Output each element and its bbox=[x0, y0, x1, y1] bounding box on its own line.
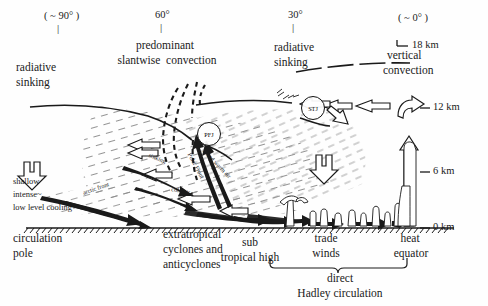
hadley-caption-line2: Hadley circulation bbox=[278, 287, 402, 300]
surface-subtropical-high-line2: tropical high bbox=[208, 251, 292, 264]
surface-extratropical-line1: extratropical bbox=[163, 228, 221, 241]
latitude-tick-60: | bbox=[160, 21, 162, 33]
surface-trade-winds-line1: trade bbox=[298, 232, 354, 245]
slantwise-convection-line1: predominant bbox=[100, 39, 230, 52]
shallow-cooling-line2: intense~ bbox=[13, 190, 42, 200]
surface-circulation-pole-line2: pole bbox=[13, 247, 33, 260]
radiative-sinking-polar-line2: sinking bbox=[16, 76, 50, 89]
latitude-tick-90: | bbox=[57, 22, 59, 34]
figure-canvas: ( ~ 90° ) | 60° | 30° | ( ~ 0° ) radiati… bbox=[0, 0, 488, 306]
radiative-sinking-subtropical-line2: sinking bbox=[274, 56, 308, 69]
jet-pfj-circle: PFJ bbox=[197, 122, 221, 146]
radiative-sinking-subtropical-line1: radiative bbox=[274, 41, 314, 54]
surface-heat-equator-line2: equator bbox=[378, 247, 444, 260]
surface-circulation-pole-line1: circulation bbox=[13, 232, 62, 245]
jet-stj-circle: STJ bbox=[301, 96, 325, 120]
latitude-label-0: ( ~ 0° ) bbox=[398, 12, 428, 24]
vertical-convection-line2: convection bbox=[383, 64, 433, 77]
surface-heat-equator-line1: heat bbox=[382, 232, 438, 245]
tropopause-break-marks bbox=[277, 89, 299, 99]
altitude-label-12km: 12 km bbox=[433, 101, 460, 113]
altitude-label-6km: 6 km bbox=[433, 165, 454, 177]
latitude-label-30: 30° bbox=[288, 9, 303, 21]
latitude-tick-30: | bbox=[292, 21, 294, 33]
hadley-caption-line1: direct bbox=[300, 272, 380, 285]
altitude-label-18km: 18 km bbox=[412, 39, 439, 51]
latitude-label-60: 60° bbox=[155, 9, 170, 21]
surface-trade-winds-line2: winds bbox=[298, 247, 354, 260]
surface-subtropical-high-line1: sub bbox=[220, 236, 280, 249]
jet-pfj-label: PFJ bbox=[204, 131, 213, 138]
altitude-label-0km: 0 km bbox=[433, 221, 454, 233]
latitude-label-90: ( ~ 90° ) bbox=[44, 10, 79, 22]
shallow-cooling-line3: low level cooling bbox=[13, 203, 72, 213]
slantwise-convection-line2: slantwise convection bbox=[92, 54, 242, 67]
radiative-sinking-polar-line1: radiative bbox=[16, 61, 56, 74]
vertical-convection-line1: vertical bbox=[387, 49, 421, 62]
shallow-cooling-line1: shallow bbox=[13, 177, 39, 187]
jet-stj-label: STJ bbox=[308, 105, 318, 112]
